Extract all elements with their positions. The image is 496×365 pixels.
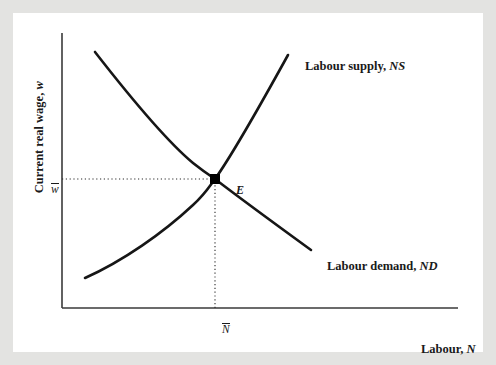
labour-demand-label-text: Labour demand, bbox=[327, 259, 416, 273]
equilibrium-point-label: E bbox=[236, 184, 244, 196]
figure-root: Current real wage, w Labour, N Labour su… bbox=[0, 0, 496, 365]
chart-panel: Current real wage, w Labour, N Labour su… bbox=[13, 13, 483, 352]
x-axis-title-text: Labour, bbox=[421, 342, 463, 356]
y-axis-tick-label: w bbox=[51, 184, 59, 196]
x-axis-title: Labour, N bbox=[421, 343, 475, 356]
labour-demand-curve bbox=[95, 52, 311, 250]
labour-demand-label-variable: ND bbox=[420, 259, 438, 273]
y-axis-title: Current real wage, w bbox=[33, 57, 46, 217]
y-axis-title-text: Current real wage, bbox=[32, 93, 46, 194]
x-axis-tick-label: N bbox=[222, 324, 230, 336]
labour-demand-label: Labour demand, ND bbox=[327, 260, 438, 273]
chart-plot-area bbox=[13, 13, 483, 352]
labour-supply-label-text: Labour supply, bbox=[305, 59, 386, 73]
x-axis-title-variable: N bbox=[466, 342, 475, 356]
x-axis-tick-label-text: N bbox=[222, 324, 230, 336]
labour-supply-label: Labour supply, NS bbox=[305, 60, 405, 73]
equilibrium-point-marker bbox=[210, 174, 220, 184]
y-axis-title-variable: w bbox=[32, 81, 46, 89]
y-axis-tick-label-text: w bbox=[51, 184, 59, 196]
labour-supply-label-variable: NS bbox=[389, 59, 405, 73]
labour-supply-curve bbox=[85, 55, 288, 278]
